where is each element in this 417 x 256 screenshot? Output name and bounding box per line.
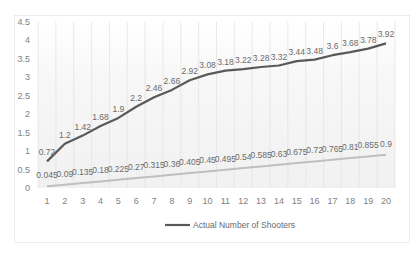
data-label: 3.48 (306, 46, 323, 56)
data-label: 0.765 (322, 144, 344, 154)
y-tick-label: 4.5 (17, 17, 30, 27)
x-tick-label: 17 (327, 196, 337, 206)
data-label: 2.46 (146, 83, 163, 93)
x-tick-label: 15 (292, 196, 302, 206)
data-label: 2.2 (130, 93, 142, 103)
data-label: 3.68 (342, 38, 359, 48)
data-label: 0.72 (39, 147, 56, 157)
x-tick-label: 2 (62, 196, 67, 206)
legend: Actual Number of Shooters (165, 220, 295, 230)
y-tick-label: 2.5 (17, 91, 30, 101)
y-tick-label: 1.5 (17, 128, 30, 138)
x-axis: 1234567891011121314151617181920 (44, 196, 391, 206)
x-tick-label: 7 (152, 196, 157, 206)
x-tick-label: 18 (345, 196, 355, 206)
x-tick-label: 8 (169, 196, 174, 206)
x-tick-label: 19 (363, 196, 373, 206)
x-tick-label: 6 (134, 196, 139, 206)
data-label: 3.08 (199, 60, 216, 70)
data-label: 1.9 (112, 104, 124, 114)
y-tick-label: 0.5 (17, 165, 30, 175)
legend-label: Actual Number of Shooters (193, 220, 295, 230)
data-label: 0.09 (57, 169, 74, 179)
data-label: 0.45 (199, 155, 216, 165)
data-label: 0.36 (164, 159, 181, 169)
data-label: 3.78 (360, 35, 377, 45)
data-label: 0.72 (306, 145, 323, 155)
data-label: 0.315 (143, 160, 165, 170)
data-label: 0.18 (92, 165, 109, 175)
x-tick-label: 16 (310, 196, 320, 206)
line-chart: 00.511.522.533.544.5 1234567891011121314… (0, 0, 417, 256)
x-tick-label: 20 (381, 196, 391, 206)
data-label: 3.32 (271, 52, 288, 62)
x-tick-label: 12 (238, 196, 248, 206)
data-label: 0.405 (179, 157, 201, 167)
x-tick-label: 1 (44, 196, 49, 206)
y-tick-label: 3.5 (17, 54, 30, 64)
data-label: 2.92 (181, 66, 198, 76)
y-tick-label: 2 (25, 109, 30, 119)
data-label: 3.44 (289, 47, 306, 57)
x-tick-label: 11 (221, 196, 230, 206)
data-label: 0.675 (286, 147, 308, 157)
data-label: 3.22 (235, 55, 252, 65)
data-label: 3.28 (253, 53, 270, 63)
y-tick-label: 1 (25, 146, 30, 156)
data-label: 0.855 (358, 140, 380, 150)
x-tick-label: 5 (116, 196, 121, 206)
data-label: 0.54 (235, 152, 252, 162)
y-tick-label: 0 (25, 183, 30, 193)
y-tick-label: 3 (25, 72, 30, 82)
data-label: 0.495 (215, 154, 237, 164)
x-tick-label: 4 (98, 196, 103, 206)
data-label: 0.225 (108, 164, 130, 174)
x-tick-label: 10 (203, 196, 213, 206)
data-label: 1.2 (59, 130, 71, 140)
x-tick-label: 14 (274, 196, 284, 206)
data-label: 3.6 (327, 41, 339, 51)
data-label: 3.18 (217, 57, 234, 67)
x-tick-label: 9 (187, 196, 192, 206)
x-tick-label: 13 (256, 196, 266, 206)
data-label: 0.9 (380, 139, 392, 149)
data-label: 2.66 (164, 76, 181, 86)
data-label: 1.68 (92, 112, 109, 122)
data-label: 0.63 (271, 149, 288, 159)
x-tick-label: 3 (80, 196, 85, 206)
y-axis: 00.511.522.533.544.5 (17, 17, 30, 193)
data-label: 1.42 (74, 122, 91, 132)
data-label: 0.135 (72, 167, 94, 177)
data-label: 3.92 (378, 29, 395, 39)
data-label: 0.045 (36, 170, 58, 180)
y-tick-label: 4 (25, 35, 30, 45)
data-label: 0.81 (342, 142, 359, 152)
data-label: 0.585 (250, 150, 272, 160)
data-label: 0.27 (128, 162, 145, 172)
